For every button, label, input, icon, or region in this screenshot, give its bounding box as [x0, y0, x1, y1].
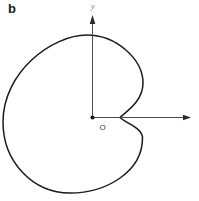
- cardioid-curve: [3, 35, 143, 193]
- y-axis-arrowhead: [90, 15, 96, 24]
- y-axis-label: y: [90, 2, 95, 11]
- cardioid-figure: y O: [0, 0, 199, 201]
- x-axis-arrowhead: [183, 115, 191, 121]
- origin-label: O: [100, 123, 106, 132]
- origin-dot: [90, 115, 94, 119]
- figure-panel-b: b y O: [0, 0, 199, 201]
